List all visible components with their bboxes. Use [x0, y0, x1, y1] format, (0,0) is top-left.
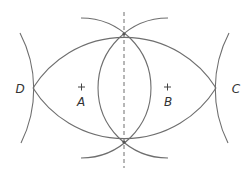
label-d: D [15, 82, 24, 96]
label-a: A [76, 95, 85, 109]
point-b-marker [164, 84, 171, 91]
bottom-intersection-point [122, 140, 125, 143]
construction-diagram: A B C D [0, 0, 247, 178]
diagram-canvas: A B C D [0, 0, 247, 178]
arc-through-c [215, 33, 229, 143]
point-a-marker [78, 84, 85, 91]
top-intersection-point [122, 32, 125, 35]
label-c: C [232, 82, 241, 96]
label-b: B [164, 95, 172, 109]
